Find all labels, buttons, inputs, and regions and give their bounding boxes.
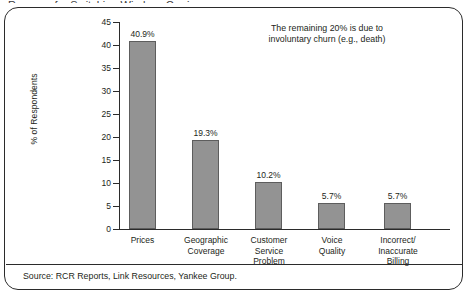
bar-value-customer-service-problem: 10.2% (243, 171, 294, 180)
annotation-line-1: The remaining 20% is due to (227, 23, 427, 34)
bar-customer-service-problem[interactable] (255, 182, 282, 229)
category-label-line: Customer (239, 235, 299, 246)
y-tick-label-30: 30 (89, 87, 111, 95)
bar-value-incorrect-inaccurate-billing: 5.7% (372, 192, 423, 201)
category-label-geographic-coverage: Geographic Coverage (176, 235, 236, 256)
category-label-line: Inaccurate (366, 246, 430, 257)
category-label-line: Service (239, 246, 299, 257)
category-label-incorrect-inaccurate-billing: Incorrect/ Inaccurate Billing (366, 235, 430, 267)
y-tick-0 (113, 229, 120, 230)
category-label-customer-service-problem: Customer Service Problem (239, 235, 299, 267)
y-tick-10 (113, 183, 120, 184)
y-tick-label-5: 5 (89, 202, 111, 210)
category-label-line: Geographic (176, 235, 236, 246)
y-tick-40 (113, 45, 120, 46)
y-tick-25 (113, 114, 120, 115)
category-label-line: Voice (302, 235, 362, 246)
category-label-line: Prices (115, 235, 170, 246)
category-label-line: Quality (302, 246, 362, 257)
category-label-line: Incorrect/ (366, 235, 430, 246)
bar-value-geographic-coverage: 19.3% (180, 129, 231, 138)
y-axis-title: % of Respondents (29, 54, 39, 164)
footer-divider (6, 264, 463, 265)
y-tick-35 (113, 68, 120, 69)
category-label-voice-quality: Voice Quality (302, 235, 362, 256)
y-tick-label-25: 25 (89, 110, 111, 118)
bar-value-prices: 40.9% (117, 30, 168, 39)
figure-frame: % of Respondents 45 40 35 30 25 20 15 10… (4, 7, 463, 290)
y-tick-20 (113, 137, 120, 138)
category-label-line: Coverage (176, 246, 236, 257)
chart-plot-area: % of Respondents 45 40 35 30 25 20 15 10… (5, 8, 464, 291)
y-tick-label-0: 0 (89, 225, 111, 233)
y-tick-label-40: 40 (89, 41, 111, 49)
y-tick-label-45: 45 (89, 18, 111, 26)
y-tick-label-20: 20 (89, 133, 111, 141)
bar-prices[interactable] (129, 41, 156, 229)
y-tick-5 (113, 206, 120, 207)
chart-annotation: The remaining 20% is due to involuntary … (227, 23, 427, 45)
y-tick-label-35: 35 (89, 64, 111, 72)
y-tick-label-15: 15 (89, 156, 111, 164)
source-note: Source: RCR Reports, Link Resources, Yan… (23, 271, 237, 282)
y-axis-line (119, 22, 120, 230)
y-tick-45 (113, 22, 120, 23)
bar-value-voice-quality: 5.7% (306, 192, 357, 201)
x-axis-line (119, 229, 450, 230)
category-label-prices: Prices (115, 235, 170, 246)
bar-geographic-coverage[interactable] (192, 140, 219, 229)
bar-incorrect-inaccurate-billing[interactable] (384, 203, 411, 229)
y-tick-label-10: 10 (89, 179, 111, 187)
cut-off-figure-title: Reasons for Switching Wireless Carriers (8, 0, 238, 3)
bar-voice-quality[interactable] (318, 203, 345, 229)
y-tick-15 (113, 160, 120, 161)
y-tick-30 (113, 91, 120, 92)
annotation-line-2: involuntary churn (e.g., death) (227, 34, 427, 45)
